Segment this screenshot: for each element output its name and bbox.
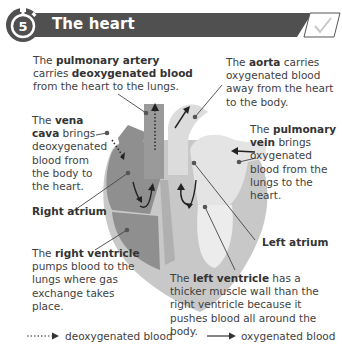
dotted-arrow-icon [26, 332, 60, 340]
pulmonary-artery-annotation: The pulmonary artery carries deoxygenate… [33, 54, 193, 94]
right-ventricle-annotation: The right ventricle pumps blood to the l… [32, 247, 142, 313]
left-ventricle-annotation: The left ventricle has a thicker muscle … [170, 272, 330, 338]
aorta-annotation: The aorta carries oxygenated blood away … [226, 56, 336, 109]
text: The [250, 123, 273, 135]
text: The [170, 272, 193, 284]
left-ventricle-term: left ventricle [193, 272, 269, 284]
pulmonary-artery-term: pulmonary artery [56, 54, 159, 66]
solid-arrow-icon [206, 332, 236, 340]
text: carries [33, 67, 72, 79]
right-atrium-label: Right atrium [32, 205, 107, 217]
text: from the heart to the lungs. [33, 80, 179, 92]
aorta-term: aorta [249, 56, 281, 68]
pulmonary-vein-annotation: The pulmonary vein brings oxygenated blo… [250, 123, 340, 202]
text: The [32, 114, 55, 126]
right-ventricle-term: right ventricle [55, 247, 140, 259]
left-atrium-label: Left atrium [262, 236, 328, 248]
legend-oxygenated: oxygenated blood [206, 330, 335, 342]
legend-label: deoxygenated blood [65, 330, 173, 342]
text: pumps blood to the lungs where gas excha… [32, 260, 135, 312]
text: The [226, 56, 249, 68]
text: The [33, 54, 56, 66]
text: The [32, 247, 55, 259]
legend-label: oxygenated blood [241, 330, 335, 342]
legend-deoxygenated: deoxygenated blood [26, 330, 173, 342]
vena-cava-annotation: The vena cava brings deoxygenated blood … [32, 114, 98, 193]
deoxygenated-blood-term: deoxygenated blood [72, 67, 193, 79]
